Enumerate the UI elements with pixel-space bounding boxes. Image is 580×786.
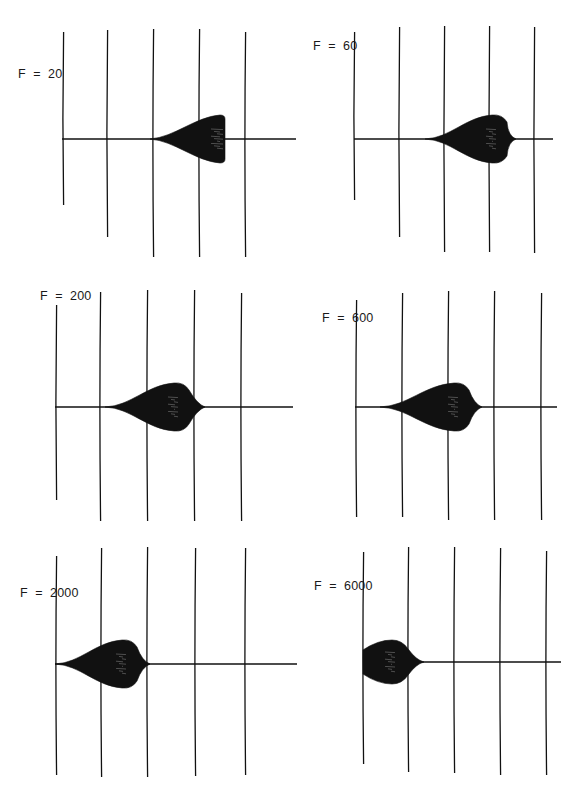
- vertical-gridline: [56, 305, 57, 500]
- waveform-panel: [363, 547, 561, 775]
- oscillation-envelope: [425, 115, 516, 163]
- vertical-gridline: [245, 32, 246, 257]
- vertical-gridline: [356, 300, 357, 517]
- panel-label: F = 60: [313, 39, 357, 53]
- vertical-gridline: [195, 548, 196, 776]
- waveform-panel: [62, 29, 296, 257]
- vertical-gridline: [63, 32, 64, 205]
- waveform-panel: [55, 547, 297, 777]
- panel-label: F = 6000: [314, 579, 373, 593]
- vertical-gridline: [454, 547, 455, 773]
- panel-label: F = 600: [322, 311, 373, 325]
- vertical-gridline: [153, 29, 154, 257]
- vertical-gridline: [245, 548, 246, 775]
- vertical-gridline: [147, 547, 148, 777]
- vertical-gridline: [546, 551, 547, 775]
- oscillation-envelope: [380, 383, 482, 431]
- vertical-gridline: [534, 27, 535, 253]
- panel-label: F = 20: [18, 67, 62, 81]
- vertical-gridline: [399, 27, 400, 237]
- vertical-gridline: [354, 32, 355, 200]
- panel-label: F = 2000: [20, 586, 79, 600]
- panel-label: F = 200: [40, 289, 91, 303]
- oscillation-envelope: [150, 115, 225, 163]
- waveform-panel: [354, 26, 553, 253]
- oscillation-envelope: [55, 640, 150, 688]
- vertical-gridline: [494, 291, 495, 520]
- oscillation-envelope: [105, 383, 205, 431]
- figure-canvas: [0, 0, 580, 786]
- waveform-panel: [355, 291, 557, 520]
- waveform-panel: [55, 290, 293, 521]
- vertical-gridline: [107, 30, 108, 237]
